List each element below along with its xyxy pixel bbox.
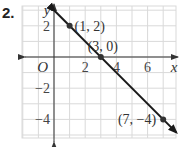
plotted-line [55,11,177,133]
data-point [67,23,73,29]
y-tick-label: −2 [35,81,50,96]
coordinate-plane-chart: 2462−2−4Oxy (1, 2)(3, 0)(7, −4) [0,0,192,147]
data-point [98,54,104,60]
x-axis-label: x [170,59,178,75]
y-tick-label: −4 [35,112,50,127]
point-label: (1, 2) [75,19,106,35]
point-label: (3, 0) [88,39,119,55]
tick-labels: 2462−2−4Oxy [35,2,178,127]
data-point [160,116,166,122]
y-tick-label: 2 [43,19,50,34]
x-tick-label: 2 [82,60,89,75]
graph-line [55,11,177,133]
origin-label: O [37,59,48,75]
point-label: (7, −4) [118,112,157,128]
y-axis-label: y [42,2,51,18]
x-tick-label: 6 [144,60,151,75]
